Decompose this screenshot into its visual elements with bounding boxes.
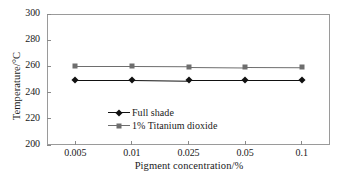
x-axis-tick-mark bbox=[75, 141, 76, 145]
y-axis-tick-mark bbox=[47, 145, 51, 146]
y-axis-title: Temperature/°C bbox=[9, 14, 25, 159]
diamond-marker-icon bbox=[108, 107, 130, 119]
data-point-square bbox=[243, 65, 248, 70]
y-axis-tick-label: 240 bbox=[25, 86, 40, 97]
y-axis-tick-label: 220 bbox=[25, 112, 40, 123]
y-axis-tick-mark bbox=[47, 14, 51, 15]
data-point-square bbox=[73, 64, 78, 69]
y-axis-tick-mark bbox=[47, 118, 51, 119]
data-point-square bbox=[129, 64, 134, 69]
chart-figure: Temperature/°C 300280260240220200 0.0050… bbox=[0, 0, 341, 182]
series-line-segment bbox=[75, 66, 132, 67]
legend-item-titanium-dioxide: 1% Titanium dioxide bbox=[108, 119, 258, 132]
chart-legend: Full shade 1% Titanium dioxide bbox=[108, 106, 258, 132]
y-axis-tick-mark bbox=[47, 92, 51, 93]
x-axis-tick-mark bbox=[301, 141, 302, 145]
y-axis-tick-label: 260 bbox=[25, 59, 40, 70]
y-axis-tick-mark bbox=[47, 66, 51, 67]
series-line-segment bbox=[189, 80, 246, 81]
x-axis-tick-label: 0.01 bbox=[102, 147, 162, 158]
x-axis-title: Pigment concentration/% bbox=[47, 160, 331, 171]
x-axis-tick-label: 0.1 bbox=[272, 147, 332, 158]
x-axis-tick-label: 0.05 bbox=[215, 147, 275, 158]
legend-item-full-shade: Full shade bbox=[108, 106, 258, 119]
legend-label: Full shade bbox=[130, 107, 174, 118]
legend-label: 1% Titanium dioxide bbox=[130, 120, 217, 131]
x-axis-tick-label: 0.005 bbox=[45, 147, 105, 158]
data-point-square bbox=[299, 65, 304, 70]
x-axis-tick-mark bbox=[188, 141, 189, 145]
series-line-segment bbox=[132, 80, 189, 82]
series-line-segment bbox=[245, 80, 302, 81]
square-marker-icon bbox=[108, 120, 130, 132]
y-axis-tick-label: 280 bbox=[25, 33, 40, 44]
x-axis-tick-mark bbox=[245, 141, 246, 145]
y-axis-tick-label: 300 bbox=[25, 7, 40, 18]
series-line-segment bbox=[188, 67, 245, 68]
y-axis-tick-label: 200 bbox=[25, 138, 40, 149]
x-axis-tick-label: 0.025 bbox=[159, 147, 219, 158]
series-line-segment bbox=[75, 80, 132, 81]
x-axis-tick-mark bbox=[131, 141, 132, 145]
data-point-square bbox=[186, 64, 191, 69]
y-axis-tick-mark bbox=[47, 40, 51, 41]
